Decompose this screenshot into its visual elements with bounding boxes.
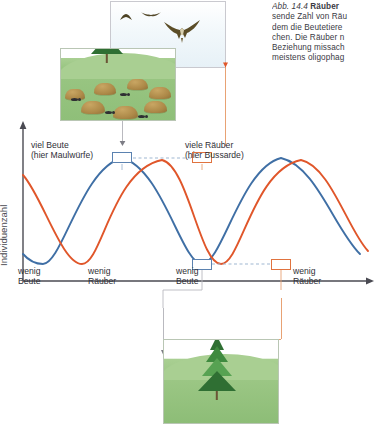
x-axis-arrowhead xyxy=(366,278,374,285)
caption-figure-number: Abb. 14.4 xyxy=(272,2,308,11)
annotation-viel-beute-line1: viel Beute xyxy=(31,140,93,150)
leader-line-predator-to-tree xyxy=(281,298,282,339)
molehill xyxy=(149,87,171,99)
panel-lone-conifer xyxy=(163,339,279,424)
buzzard-icon-small xyxy=(140,10,162,20)
annotation-wenig-raeuber-2-line2: Räuber xyxy=(293,276,321,286)
annotation-viele-raeuber: viele Räuber (hier Bussarde) xyxy=(185,140,244,161)
mole-icon xyxy=(120,93,127,96)
annotation-wenig-beute-1-line1: wenig xyxy=(18,266,40,276)
conifer-tree-icon xyxy=(87,48,127,63)
mole-icon xyxy=(71,98,78,101)
annotation-wenig-raeuber-1-line2: Räuber xyxy=(88,276,116,286)
caption-line-5: Beziehung missach xyxy=(272,43,381,53)
annotation-viel-beute-line2: (hier Maulwürfe) xyxy=(31,150,93,160)
y-axis-label: Individuenzahl xyxy=(0,205,9,266)
molehill xyxy=(81,101,105,114)
caption-line-6: meistens oligophag xyxy=(272,53,381,63)
caption-line-3: dem die Beutetiere xyxy=(272,23,381,33)
caption-line-4: chen. Die Räuber n xyxy=(272,33,381,43)
annotation-wenig-beute-2-line1: wenig xyxy=(176,266,198,276)
conifer-tree-icon-bottom xyxy=(194,339,240,400)
mole-icon xyxy=(105,111,112,114)
marker-prey-peak xyxy=(112,152,132,163)
annotation-wenig-beute-2: wenig Beute xyxy=(176,266,198,287)
figure-caption: Abb. 14.4 Räuber sende Zahl von Räu dem … xyxy=(272,2,381,64)
annotation-wenig-beute-1: wenig Beute xyxy=(18,266,40,287)
panel-molehills-ground xyxy=(60,48,176,121)
caption-title: Räuber xyxy=(310,2,339,11)
buzzard-icon-perched xyxy=(119,13,133,22)
figure-root: Abb. 14.4 Räuber sende Zahl von Räu dem … xyxy=(0,0,381,425)
y-axis-arrowhead xyxy=(20,121,27,129)
leader-corner-predator-tree xyxy=(279,339,281,340)
molehill xyxy=(127,79,148,90)
annotation-wenig-raeuber-2: wenig Räuber xyxy=(293,266,321,287)
annotation-wenig-beute-1-line2: Beute xyxy=(18,276,40,286)
caption-line-1: Abb. 14.4 Räuber xyxy=(272,2,381,12)
leader-arrow-predator-down xyxy=(222,60,229,68)
molehill xyxy=(94,83,116,95)
caption-line-2: sende Zahl von Räu xyxy=(272,12,381,22)
annotation-viel-beute: viel Beute (hier Maulwürfe) xyxy=(31,140,93,161)
leader-line-to-tree-panel xyxy=(163,284,202,308)
annotation-wenig-raeuber-2-line1: wenig xyxy=(293,266,321,276)
marker-predator-trough xyxy=(271,259,291,270)
curve-predator-raeuber xyxy=(23,160,368,264)
annotation-wenig-raeuber-1: wenig Räuber xyxy=(88,266,116,287)
annotation-viele-raeuber-line1: viele Räuber xyxy=(185,140,244,150)
annotation-viele-raeuber-line2: (hier Bussarde) xyxy=(185,150,244,160)
annotation-wenig-beute-2-line2: Beute xyxy=(176,276,198,286)
annotation-wenig-raeuber-1-line1: wenig xyxy=(88,266,116,276)
buzzard-icon-large xyxy=(163,18,201,44)
molehill xyxy=(144,101,167,113)
